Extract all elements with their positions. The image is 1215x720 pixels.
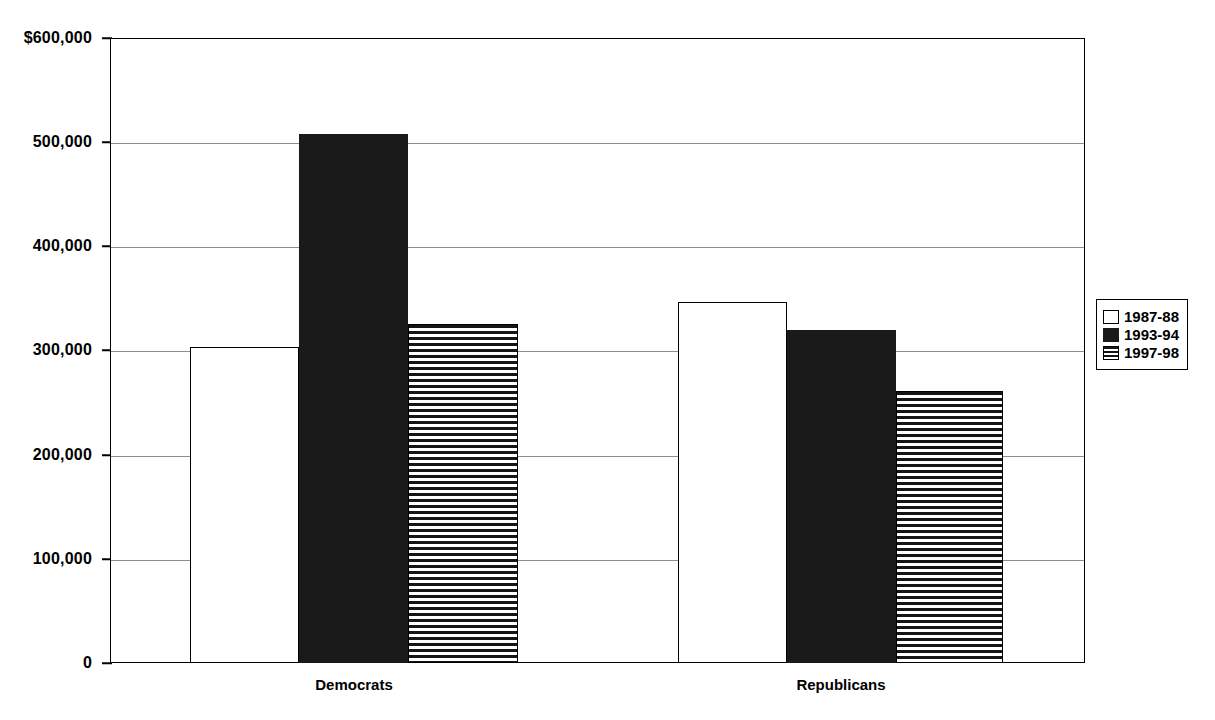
y-tick-label-200000: 200,000 (0, 446, 100, 464)
black-square-icon (1103, 328, 1119, 342)
bar-republicans-1993-94 (787, 330, 896, 663)
legend-item-1993-94: 1993-94 (1103, 327, 1179, 342)
y-axis-labels: $600,000 500,000 400,000 300,000 200,000… (0, 0, 100, 720)
x-group-label-republicans: Republicans (796, 676, 885, 693)
legend-item-1987-88: 1987-88 (1103, 309, 1179, 324)
y-tick-label-600000: $600,000 (0, 29, 100, 47)
bar-chart: $600,000 500,000 400,000 300,000 200,000… (0, 0, 1215, 720)
y-tick-label-0: 0 (0, 654, 100, 672)
y-tick-label-100000: 100,000 (0, 550, 100, 568)
bars-layer (110, 38, 1085, 663)
legend-item-1997-98: 1997-98 (1103, 345, 1179, 360)
bar-republicans-1997-98 (896, 391, 1003, 663)
y-tick-label-400000: 400,000 (0, 237, 100, 255)
y-tick-label-500000: 500,000 (0, 133, 100, 151)
bar-democrats-1993-94 (299, 134, 408, 663)
legend-label-1997-98: 1997-98 (1124, 345, 1179, 360)
bar-republicans-1987-88 (678, 302, 787, 663)
legend-label-1987-88: 1987-88 (1124, 309, 1179, 324)
legend-label-1993-94: 1993-94 (1124, 327, 1179, 342)
bar-democrats-1997-98 (408, 324, 518, 663)
legend: 1987-88 1993-94 1997-98 (1096, 299, 1188, 370)
x-group-label-democrats: Democrats (315, 676, 393, 693)
y-tick-label-300000: 300,000 (0, 341, 100, 359)
white-square-icon (1103, 310, 1119, 324)
bar-democrats-1987-88 (190, 347, 299, 663)
striped-square-icon (1103, 346, 1119, 360)
x-axis-labels: Democrats Republicans (110, 676, 1085, 706)
